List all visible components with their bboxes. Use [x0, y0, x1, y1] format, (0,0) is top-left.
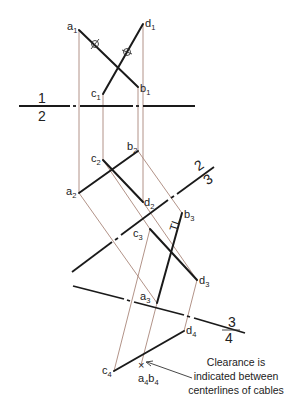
label-b3: b3 — [184, 208, 194, 223]
centerline-icon — [122, 49, 132, 56]
label-d1: d1 — [145, 17, 155, 32]
label-a1: a1 — [67, 20, 77, 35]
fold-label-4: 4 — [225, 330, 233, 346]
label-c4: c4 — [102, 364, 112, 379]
label-a4b4: a4b4 — [138, 372, 159, 387]
label-d4: d4 — [186, 324, 196, 339]
label-a2: a2 — [66, 185, 76, 200]
fold-label-3b: 3 — [228, 314, 236, 330]
label-b2: b2 — [127, 140, 137, 155]
label-d2: d2 — [144, 196, 154, 211]
fold-label-1: 1 — [38, 90, 46, 106]
point-view-marker: × — [138, 359, 144, 371]
clearance-note: Clearance is indicated between centerlin… — [188, 356, 284, 396]
cable-cd-view4 — [114, 331, 184, 371]
diagram-canvas: 1 2 2 3 3 4 TL × — [0, 0, 292, 404]
label-d3: d3 — [199, 274, 209, 289]
projection-lines-1-2 — [79, 24, 143, 202]
label-a3: a3 — [140, 290, 150, 305]
label-c1: c1 — [91, 87, 101, 102]
note-line-1: Clearance is — [207, 356, 265, 368]
label-c3: c3 — [133, 227, 143, 242]
fold-label-2: 2 — [38, 108, 46, 124]
note-line-2: indicated between — [194, 370, 279, 382]
label-b1: b1 — [140, 82, 150, 97]
point-labels: a1 d1 b1 c1 b2 c2 a2 d2 b3 c3 d3 a3 d4 c… — [66, 17, 209, 387]
descriptive-geometry-diagram: 1 2 2 3 3 4 TL × — [0, 0, 292, 404]
cable-cd-view3 — [150, 229, 197, 280]
cable-cd-view2 — [103, 160, 143, 202]
label-c2: c2 — [91, 152, 101, 167]
note-line-3: centerlines of cables — [188, 384, 284, 396]
cable-ab-view1 — [79, 30, 138, 87]
fold-label-3: 3 — [200, 170, 216, 188]
projection-lines-3-4 — [114, 229, 197, 371]
